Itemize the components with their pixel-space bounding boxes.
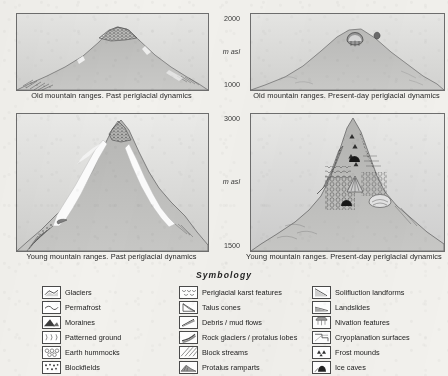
- legend-item-periglacial-karst[interactable]: Periglacial karst features: [179, 286, 282, 299]
- rock-glaciers-icon: [179, 331, 198, 344]
- patterned-ground-icon: [42, 331, 61, 344]
- panel-young-past-illustration: [17, 114, 208, 251]
- protalus-rampart-marker: [369, 195, 391, 208]
- legend-item-landslides[interactable]: Landslides: [312, 301, 370, 314]
- axis-top-min: 1000: [196, 80, 240, 89]
- legend-label: Rock glaciers / protalus lobes: [202, 334, 297, 341]
- panel-old-past-illustration: [17, 14, 208, 90]
- glaciers-icon: [42, 286, 61, 299]
- legend-label: Solifluction landforms: [335, 289, 404, 296]
- legend-item-rock-glaciers[interactable]: Rock glaciers / protalus lobes: [179, 331, 297, 344]
- nivation-icon: [312, 316, 331, 329]
- symbology-title: Symbology: [0, 270, 448, 280]
- legend-item-moraines[interactable]: Moraines: [42, 316, 95, 329]
- solifluction-icon: [312, 286, 331, 299]
- legend-item-glaciers[interactable]: Glaciers: [42, 286, 92, 299]
- debris-mud-flows-icon: [179, 316, 198, 329]
- panel-old-present-illustration: [251, 14, 444, 90]
- protalus-ramparts-icon: [179, 361, 198, 374]
- legend-label: Earth hummocks: [65, 349, 120, 356]
- blockfields-icon: [42, 361, 61, 374]
- permafrost-icon: [42, 301, 61, 314]
- legend-label: Ice caves: [335, 364, 366, 371]
- legend-item-debris-mud-flows[interactable]: Debris / mud flows: [179, 316, 262, 329]
- axis-bottom-max: 3000: [196, 114, 240, 123]
- legend-label: Block streams: [202, 349, 248, 356]
- axis-top-max: 2000: [196, 14, 240, 23]
- legend-item-blockfields[interactable]: Blockfields: [42, 361, 100, 374]
- axis-bottom-min: 1500: [196, 241, 240, 250]
- legend-label: Nivation features: [335, 319, 390, 326]
- legend-label: Landslides: [335, 304, 370, 311]
- legend-item-talus-cones[interactable]: Talus cones: [179, 301, 241, 314]
- ice-caves-icon: [312, 361, 331, 374]
- legend-item-protalus-ramparts[interactable]: Protalus ramparts: [179, 361, 260, 374]
- axis-top-unit: m asl: [196, 47, 240, 56]
- legend-item-frost-mounds[interactable]: Frost mounds: [312, 346, 380, 359]
- legend-item-earth-hummocks[interactable]: Earth hummocks: [42, 346, 120, 359]
- legend-item-cryoplanation[interactable]: Cryoplanation surfaces: [312, 331, 410, 344]
- legend-label: Glaciers: [65, 289, 92, 296]
- landslides-icon: [312, 301, 331, 314]
- legend-item-patterned-ground[interactable]: Patterned ground: [42, 331, 121, 344]
- legend-label: Moraines: [65, 319, 95, 326]
- caption-young-past: Young mountain ranges. Past periglacial …: [16, 252, 207, 261]
- legend-item-solifluction[interactable]: Solifluction landforms: [312, 286, 404, 299]
- moraines-icon: [42, 316, 61, 329]
- panel-old-past: [16, 13, 209, 91]
- legend-item-ice-caves[interactable]: Ice caves: [312, 361, 366, 374]
- legend-label: Patterned ground: [65, 334, 121, 341]
- legend-label: Debris / mud flows: [202, 319, 262, 326]
- legend-item-block-streams[interactable]: Block streams: [179, 346, 248, 359]
- legend-label: Protalus ramparts: [202, 364, 260, 371]
- legend-label: Blockfields: [65, 364, 100, 371]
- periglacial-karst-icon: [179, 286, 198, 299]
- periglacial-dynamics-figure: Old mountain ranges. Past periglacial dy…: [0, 0, 448, 376]
- legend-item-nivation[interactable]: Nivation features: [312, 316, 390, 329]
- legend-item-permafrost[interactable]: Permafrost: [42, 301, 101, 314]
- panel-young-present-illustration: [251, 114, 444, 251]
- block-streams-icon: [179, 346, 198, 359]
- frost-mounds-icon: [312, 346, 331, 359]
- earth-hummocks-icon: [42, 346, 61, 359]
- legend-label: Frost mounds: [335, 349, 380, 356]
- axis-bottom-unit: m asl: [196, 177, 240, 186]
- legend-label: Periglacial karst features: [202, 289, 282, 296]
- legend-label: Permafrost: [65, 304, 101, 311]
- earth-hummocks-marker: [325, 166, 351, 178]
- caption-old-present: Old mountain ranges. Present-day perigla…: [244, 91, 448, 100]
- panel-young-past: [16, 113, 209, 252]
- caption-young-present: Young mountain ranges. Present-day perig…: [240, 252, 448, 261]
- cryoplanation-icon: [312, 331, 331, 344]
- legend-label: Talus cones: [202, 304, 241, 311]
- talus-cones-icon: [179, 301, 198, 314]
- panel-old-present: [250, 13, 445, 91]
- caption-old-past: Old mountain ranges. Past periglacial dy…: [16, 91, 207, 100]
- legend-label: Cryoplanation surfaces: [335, 334, 410, 341]
- panel-young-present: [250, 113, 445, 252]
